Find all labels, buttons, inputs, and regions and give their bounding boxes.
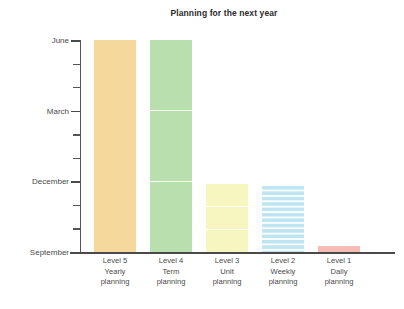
- bar-segment: [206, 184, 248, 206]
- bar-segment: [150, 110, 192, 181]
- x-label-line3: planning: [306, 277, 372, 288]
- y-tick-label-march: March: [47, 106, 69, 115]
- x-axis-labels: Level 5 Yearly planning Level 4 Term pla…: [80, 256, 400, 304]
- bar-segment: [150, 181, 192, 252]
- y-tick-label-september: September: [30, 248, 69, 257]
- bar-level-3-unit-planning[interactable]: [206, 184, 248, 252]
- plot-area: June March December September: [80, 40, 400, 252]
- bar-segment: [150, 40, 192, 110]
- bar-segment: [94, 40, 136, 252]
- chart-container: Planning for the next year June March De…: [0, 0, 404, 309]
- bar-segment: [318, 246, 360, 252]
- y-tick-label-december: December: [32, 177, 69, 186]
- chart-title: Planning for the next year: [0, 8, 404, 18]
- bar-level-2-weekly-planning[interactable]: [262, 186, 304, 252]
- bar-level-4-term-planning[interactable]: [150, 40, 192, 252]
- bar-level-1-daily-planning[interactable]: [318, 246, 360, 252]
- x-label-level-1: Level 1 Daily planning: [306, 256, 372, 288]
- x-axis-line: [70, 252, 395, 254]
- y-axis-line: [80, 40, 81, 252]
- y-tick-label-june: June: [52, 36, 69, 45]
- bar-segment: [206, 206, 248, 229]
- bar-segment: [206, 229, 248, 252]
- x-label-line1: Level 1: [306, 256, 372, 267]
- x-label-line2: Daily: [306, 267, 372, 278]
- bar-level-5-yearly-planning[interactable]: [94, 40, 136, 252]
